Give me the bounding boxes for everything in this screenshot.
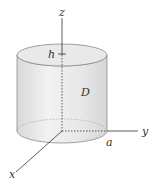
z-axis-label: z <box>58 6 65 19</box>
cylinder-diagram: z h D a y x <box>0 0 151 187</box>
radius-label: a <box>106 136 113 149</box>
height-label: h <box>48 48 55 61</box>
x-axis-label: x <box>9 168 16 181</box>
y-axis-label: y <box>141 125 149 138</box>
region-label: D <box>80 86 90 99</box>
